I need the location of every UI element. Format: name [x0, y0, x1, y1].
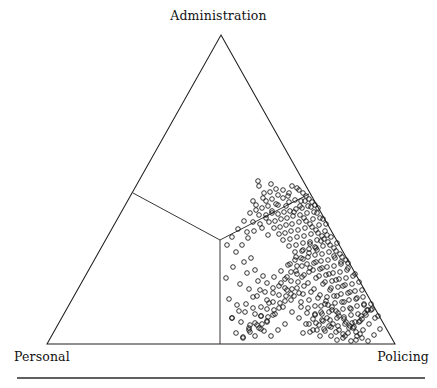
- scatter-point: [361, 295, 366, 300]
- scatter-point: [305, 262, 310, 267]
- scatter-point: [333, 301, 338, 306]
- scatter-point: [283, 299, 288, 304]
- scatter-point: [289, 279, 294, 284]
- scatter-point: [251, 306, 256, 311]
- scatter-point: [361, 328, 366, 333]
- scatter-point: [230, 235, 235, 240]
- scatter-point: [372, 333, 377, 338]
- scatter-point: [293, 250, 298, 255]
- scatter-point: [306, 281, 311, 286]
- scatter-point: [360, 288, 365, 293]
- scatter-point: [355, 296, 360, 301]
- scatter-point: [295, 235, 300, 240]
- scatter-point: [257, 184, 262, 189]
- scatter-point: [256, 179, 261, 184]
- scatter-point: [355, 304, 360, 309]
- scatter-point: [304, 322, 309, 327]
- scatter-point: [321, 244, 326, 249]
- scatter-point: [312, 287, 317, 292]
- scatter-point: [293, 258, 298, 263]
- scatter-point: [230, 316, 235, 321]
- scatter-point: [350, 282, 355, 287]
- scatter-point: [303, 226, 308, 231]
- scatter-point: [378, 327, 383, 332]
- scatter-point: [248, 323, 253, 328]
- scatter-point: [319, 259, 324, 264]
- scatter-point: [307, 298, 312, 303]
- scatter-point: [239, 320, 244, 325]
- scatter-point: [276, 193, 281, 198]
- scatter-point: [349, 313, 354, 318]
- scatter-point: [244, 302, 249, 307]
- scatter-point: [298, 213, 303, 218]
- scatter-point: [269, 334, 274, 339]
- scatter-point: [287, 191, 292, 196]
- scatter-point: [285, 216, 290, 221]
- ternary-plot-figure: Administration Personal Policing: [0, 0, 437, 388]
- scatter-point: [283, 322, 288, 327]
- scatter-point: [252, 229, 257, 234]
- scatter-points: [224, 179, 383, 344]
- scatter-point: [266, 204, 271, 209]
- scatter-point: [263, 290, 268, 295]
- scatter-point: [262, 191, 267, 196]
- scatter-point: [318, 334, 323, 339]
- scatter-point: [225, 243, 230, 248]
- scatter-point: [301, 241, 306, 246]
- scatter-point: [261, 196, 266, 201]
- scatter-point: [349, 307, 354, 312]
- scatter-point: [256, 279, 261, 284]
- scatter-point: [254, 203, 259, 208]
- scatter-point: [330, 305, 335, 310]
- scatter-point: [274, 187, 279, 192]
- scatter-point: [277, 232, 282, 237]
- scatter-point: [245, 230, 250, 235]
- scatter-point: [266, 233, 271, 238]
- scatter-point: [367, 322, 372, 327]
- scatter-point: [269, 182, 274, 187]
- scatter-point: [273, 219, 278, 224]
- scatter-point: [254, 208, 259, 213]
- scatter-point: [251, 199, 256, 204]
- scatter-point: [360, 336, 365, 341]
- scatter-point: [289, 298, 294, 303]
- vertex-label-administration: Administration: [0, 9, 437, 23]
- scatter-point: [341, 307, 346, 312]
- scatter-point: [272, 275, 277, 280]
- scatter-point: [335, 294, 340, 299]
- scatter-point: [306, 204, 311, 209]
- scatter-point: [260, 206, 265, 211]
- scatter-point: [276, 328, 281, 333]
- scatter-point: [323, 302, 328, 307]
- scatter-point: [299, 305, 304, 310]
- scatter-point: [295, 286, 300, 291]
- scatter-point: [290, 184, 295, 189]
- scatter-point: [325, 233, 330, 238]
- scatter-point: [315, 211, 320, 216]
- scatter-point: [305, 311, 310, 316]
- scatter-point: [294, 269, 299, 274]
- scatter-point: [302, 284, 307, 289]
- scatter-point: [338, 270, 343, 275]
- vertex-label-personal: Personal: [14, 350, 70, 364]
- scatter-point: [353, 289, 358, 294]
- scatter-point: [320, 252, 325, 257]
- partition-line-left: [133, 193, 220, 240]
- scatter-point: [309, 205, 314, 210]
- scatter-point: [227, 297, 232, 302]
- scatter-point: [294, 255, 299, 260]
- scatter-point: [317, 223, 322, 228]
- scatter-point: [294, 243, 299, 248]
- scatter-point: [327, 250, 332, 255]
- scatter-point: [249, 256, 254, 261]
- scatter-point: [281, 238, 286, 243]
- scatter-point: [253, 312, 258, 317]
- scatter-point: [270, 197, 275, 202]
- scatter-point: [237, 309, 242, 314]
- scatter-point: [290, 310, 295, 315]
- scatter-point: [335, 338, 340, 343]
- scatter-point: [337, 277, 342, 282]
- scatter-point: [301, 331, 306, 336]
- scatter-point: [271, 291, 276, 296]
- scatter-point: [265, 307, 270, 312]
